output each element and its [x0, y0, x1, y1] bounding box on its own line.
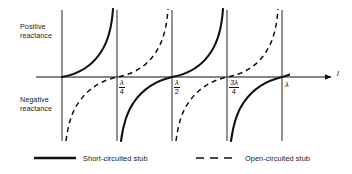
- fraction-denominator: 4: [229, 88, 239, 96]
- legend-item-short-circuited-stub: Short-circuited stub: [34, 151, 148, 165]
- x-tick-label-quarter-lambda: λ 4: [119, 79, 125, 96]
- asymptote-lines: [62, 10, 282, 141]
- short-branch-1: [62, 9, 113, 77]
- fraction-half-lambda: λ 2: [174, 79, 180, 96]
- x-tick-label-three-quarter-lambda: 3λ 4: [229, 79, 239, 96]
- negative-reactance-label-line2: reactance: [20, 104, 52, 113]
- chart-legend: Short-circuited stub Open-circuited stub: [0, 148, 352, 170]
- legend-dashed-line-swatch: [196, 153, 238, 163]
- positive-reactance-label-line2: reactance: [20, 31, 52, 40]
- negative-reactance-label-line1: Negative: [20, 95, 52, 104]
- reactance-stub-chart: Positive reactance Negative reactance λ …: [0, 0, 352, 174]
- x-tick-label-half-lambda: λ 2: [174, 79, 180, 96]
- fraction-quarter-lambda: λ 4: [119, 79, 125, 96]
- negative-reactance-label: Negative reactance: [20, 95, 52, 113]
- legend-item-open-circuited-stub: Open-circuited stub: [196, 151, 310, 165]
- fraction-three-quarter-lambda: 3λ 4: [229, 79, 239, 96]
- x-axis-name-label: l: [337, 69, 339, 78]
- legend-label-open-circuited-stub: Open-circuited stub: [245, 154, 310, 163]
- fraction-denominator: 4: [119, 88, 125, 96]
- positive-reactance-label-line1: Positive: [20, 22, 52, 31]
- curve-short-circuited-stub: [62, 9, 301, 141]
- positive-reactance-label: Positive reactance: [20, 22, 52, 40]
- short-branch-3: [231, 68, 301, 141]
- legend-solid-line-swatch: [34, 153, 76, 163]
- legend-label-short-circuited-stub: Short-circuited stub: [83, 154, 148, 163]
- x-tick-label-full-lambda: λ: [285, 80, 289, 89]
- fraction-denominator: 2: [174, 88, 180, 96]
